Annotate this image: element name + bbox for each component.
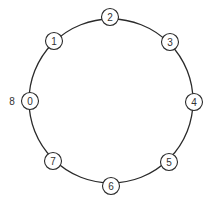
node-label: 0: [27, 96, 33, 107]
node-label: 3: [167, 37, 173, 48]
ring-diagram: 01234567 8: [0, 0, 211, 203]
node-label: 1: [51, 36, 57, 47]
node-label: 4: [191, 97, 197, 108]
node-1: 1: [46, 33, 63, 50]
node-label: 5: [166, 157, 172, 168]
outer-labels: 8: [9, 96, 15, 107]
outer-label: 8: [9, 96, 15, 107]
ring-nodes: 01234567: [22, 9, 203, 195]
node-7: 7: [45, 153, 62, 170]
node-2: 2: [102, 9, 119, 26]
node-3: 3: [162, 34, 179, 51]
node-5: 5: [161, 154, 178, 171]
node-label: 7: [50, 156, 56, 167]
node-label: 6: [108, 181, 114, 192]
node-label: 2: [107, 12, 113, 23]
node-0: 0: [22, 93, 39, 110]
node-6: 6: [103, 178, 120, 195]
node-4: 4: [186, 94, 203, 111]
